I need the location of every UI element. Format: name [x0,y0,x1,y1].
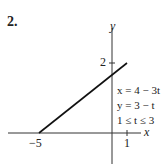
chart-axes [0,0,163,164]
x-tick-label-neg5: −5 [29,136,42,151]
equation-y: y = 3 − t [117,98,160,113]
x-tick-label-1: 1 [124,136,130,151]
y-axis-label: y [110,19,115,34]
parametric-equations: x = 4 − 3t y = 3 − t 1 ≤ t ≤ 3 [117,83,160,128]
curve-segment [39,63,127,133]
y-tick-label-2: 2 [100,55,106,70]
equation-x: x = 4 − 3t [117,83,160,98]
equation-t-range: 1 ≤ t ≤ 3 [117,113,160,128]
